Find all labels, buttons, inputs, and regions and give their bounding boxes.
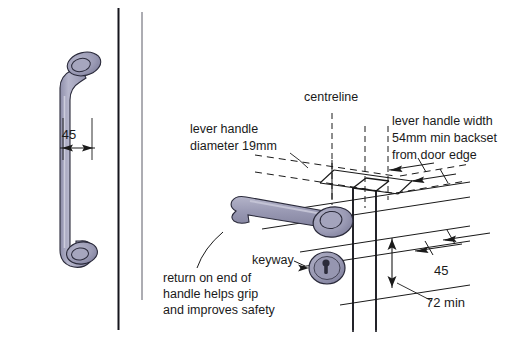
svg-text:keyway: keyway: [252, 253, 294, 267]
dimension-arrow-icon: [390, 166, 403, 173]
svg-text:handle helps grip: handle helps grip: [163, 287, 258, 301]
left-45-label: 45: [62, 127, 76, 142]
return-note-label: return on end of handle helps grip and i…: [163, 232, 276, 317]
height-min-label: 72 min: [426, 295, 465, 310]
lever-width-backset-label: lever handle width 54mm min backset from…: [392, 114, 497, 162]
svg-text:diameter 19mm: diameter 19mm: [190, 139, 277, 153]
left-handle-side-view: [60, 49, 103, 268]
svg-text:lever handle width: lever handle width: [392, 114, 493, 128]
lever-diameter-label: lever handle diameter 19mm: [190, 122, 308, 168]
centreline-label: centreline: [304, 90, 358, 104]
centreline-marker: [332, 113, 388, 208]
svg-text:lever handle: lever handle: [190, 122, 258, 136]
svg-text:from door edge: from door edge: [392, 148, 477, 162]
svg-text:54mm min backset: 54mm min backset: [392, 131, 497, 145]
technical-diagram: 45: [0, 0, 512, 338]
dimension-arrow-icon: [412, 177, 425, 184]
keyway-escutcheon-icon: [309, 252, 345, 284]
svg-text:and improves safety: and improves safety: [163, 303, 276, 317]
svg-text:return on end of: return on end of: [163, 271, 252, 285]
right-45-label: 45: [434, 263, 448, 278]
diagram-canvas: 45: [0, 0, 512, 338]
right-45-dimension: 45: [415, 230, 490, 278]
keyway-label: keyway: [252, 253, 309, 272]
